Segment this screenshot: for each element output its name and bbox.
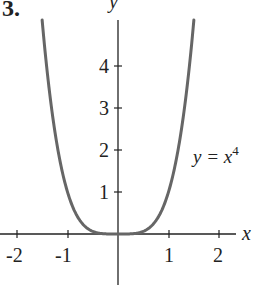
x-axis-label: x: [241, 222, 251, 244]
x-tick-label: -2: [6, 244, 23, 266]
x-tick-label: -1: [55, 244, 72, 266]
y-tick-label: 3: [99, 97, 109, 119]
y-tick-label: 4: [99, 55, 109, 77]
y-tick-label: 2: [99, 139, 109, 161]
y-tick-label: 1: [99, 181, 109, 203]
y-axis-label: y: [107, 0, 118, 13]
chart: 3. x y -2 -1 1 2 1 2 3 4 y = x4: [0, 0, 256, 285]
x-tick-label: 2: [213, 244, 223, 266]
problem-number: 3.: [2, 0, 20, 21]
x-tick-label: 1: [164, 244, 174, 266]
curve-label: y = x4: [191, 143, 239, 167]
